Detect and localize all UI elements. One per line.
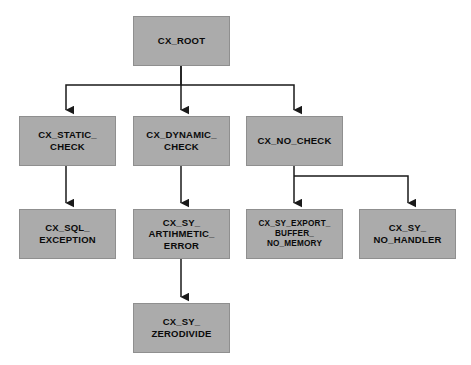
node-cx_static_check[interactable]: CX_STATIC_ CHECK <box>19 116 116 166</box>
node-cx_dynamic_check[interactable]: CX_DYNAMIC_ CHECK <box>133 116 230 166</box>
edge-nocheck-nohandler <box>294 176 408 203</box>
node-cx_sy_arithmetic_error[interactable]: CX_SY_ ARTIHMETIC_ ERROR <box>133 209 230 259</box>
node-label: CX_SY_EXPORT_ BUFFER_ NO_MEMORY <box>247 219 342 249</box>
node-label: CX_SY_ ZERODIVIDE <box>134 316 229 339</box>
edge-group <box>66 66 408 297</box>
node-label: CX_SQL_ EXCEPTION <box>20 222 115 245</box>
node-label: CX_NO_CHECK <box>247 135 342 147</box>
node-cx_no_check[interactable]: CX_NO_CHECK <box>246 116 343 166</box>
edge-root-nocheck <box>181 85 294 110</box>
node-label: CX_SY_ NO_HANDLER <box>360 222 455 245</box>
node-cx_sy_no_handler[interactable]: CX_SY_ NO_HANDLER <box>359 209 456 259</box>
node-label: CX_ROOT <box>134 35 229 47</box>
node-cx_sql_exception[interactable]: CX_SQL_ EXCEPTION <box>19 209 116 259</box>
node-cx_sy_export_buffer_no_memory[interactable]: CX_SY_EXPORT_ BUFFER_ NO_MEMORY <box>246 209 343 259</box>
node-label: CX_DYNAMIC_ CHECK <box>134 129 229 152</box>
node-cx_root[interactable]: CX_ROOT <box>133 16 230 66</box>
node-label: CX_SY_ ARTIHMETIC_ ERROR <box>134 217 229 252</box>
node-label: CX_STATIC_ CHECK <box>20 129 115 152</box>
edge-root-static <box>66 66 181 110</box>
exception-hierarchy-diagram: CX_ROOTCX_STATIC_ CHECKCX_DYNAMIC_ CHECK… <box>0 0 471 365</box>
edge-layer <box>0 0 471 365</box>
node-cx_sy_zerodivide[interactable]: CX_SY_ ZERODIVIDE <box>133 303 230 353</box>
